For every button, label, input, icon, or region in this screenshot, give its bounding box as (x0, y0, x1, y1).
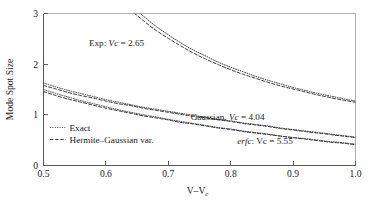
legend-label: Hermite–Gaussian var. (70, 135, 154, 145)
y-tick-label: 2 (33, 59, 38, 70)
data-curve (44, 0, 356, 101)
y-tick-label: 3 (33, 8, 38, 19)
x-tick-label: 0.6 (100, 168, 112, 179)
x-tick-label: 0.7 (162, 168, 174, 179)
x-axis-title: V–Vc (187, 185, 209, 198)
annotation-gaussian: Gaussian, Vc = 4.04 (191, 112, 265, 122)
legend-label: Exact (70, 123, 91, 133)
y-axis-title: Mode Spot Size (4, 59, 15, 120)
x-tick-label: 0.5 (38, 168, 50, 179)
annotation-exp: Exp: Vc = 2.65 (89, 38, 145, 48)
mode-spot-size-chart: 01230.50.60.70.80.91.0Mode Spot SizeV–Vc… (0, 0, 379, 202)
y-tick-label: 1 (33, 109, 38, 120)
x-tick-label: 1.0 (350, 168, 362, 179)
figure-canvas: 01230.50.60.70.80.91.0Mode Spot SizeV–Vc… (0, 0, 379, 202)
x-tick-label: 0.9 (287, 168, 299, 179)
data-curve (44, 0, 356, 102)
x-tick-label: 0.8 (225, 168, 237, 179)
annotation-erfc: erfc: Vc = 5.55 (237, 136, 293, 146)
